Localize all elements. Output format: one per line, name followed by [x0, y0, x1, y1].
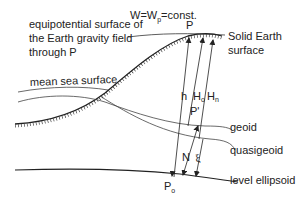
solid-earth-label-line1: Solid Earth [228, 30, 282, 42]
quasigeoid-line [100, 96, 235, 150]
equipotential-label-line1: equipotential surface of [29, 18, 144, 30]
mean-sea-surface-label: mean sea surface [30, 73, 118, 88]
equipotential-label-line2: the Earth gravity field [29, 32, 132, 44]
diagram-svg: equipotential surface of the Earth gravi… [0, 0, 296, 198]
solid-earth-label-line2: surface [228, 44, 264, 56]
geoid-label: geoid [230, 121, 257, 133]
equipotential-label-line3: through P [29, 46, 77, 58]
Ho-label: Ho [193, 90, 205, 103]
level-ellipsoid-label: level ellipsoid [230, 174, 295, 186]
level-ellipsoid-line [15, 169, 238, 182]
p0-label: Po [164, 180, 175, 194]
quasigeoid-label: quasigeoid [230, 144, 283, 156]
Hn-label: Hn [207, 90, 219, 103]
N-label: N [182, 151, 190, 163]
geodetic-heights-diagram: equipotential surface of the Earth gravi… [0, 0, 296, 198]
point-p-label: P [186, 19, 193, 31]
point-p-prime-label: P' [190, 105, 199, 117]
h-label: h [181, 90, 187, 102]
